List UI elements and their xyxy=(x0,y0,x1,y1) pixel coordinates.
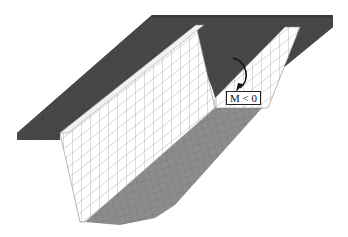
moment-label: M < 0 xyxy=(226,91,261,105)
box-girder-mesh-diagram xyxy=(0,0,348,237)
